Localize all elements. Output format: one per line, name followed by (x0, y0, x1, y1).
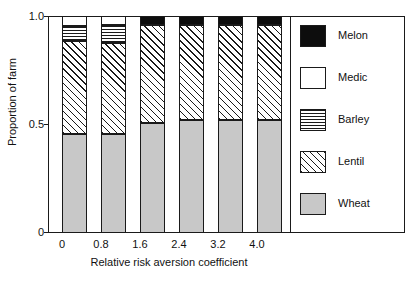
bar-segment-melon-3.2 (218, 16, 243, 25)
bar-0[interactable] (62, 16, 87, 233)
bar-segment-lentil-1.6 (140, 25, 165, 124)
stacked-bar-chart-figure: 1.0 0.5 0 Proportion of farm 0 0.8 1.6 2… (0, 0, 417, 281)
bar-segment-wheat-2.4 (179, 120, 204, 233)
bars-container (48, 16, 290, 233)
legend-swatch-medic-icon (300, 67, 326, 89)
xtick-label-2.4: 2.4 (157, 238, 201, 250)
x-axis-label: Relative risk aversion coefficient (48, 256, 290, 268)
bar-3.2[interactable] (218, 16, 243, 233)
legend-swatch-melon-icon (300, 25, 326, 47)
ytick-label-0: 0 (0, 227, 44, 238)
bar-segment-barley-0 (62, 26, 87, 41)
legend-item-melon[interactable]: Melon (300, 25, 404, 47)
legend-swatch-wheat-icon (300, 193, 326, 215)
bar-segment-medic-0.8 (101, 16, 126, 25)
bar-2.4[interactable] (179, 16, 204, 233)
bar-segment-wheat-0 (62, 134, 87, 233)
y-axis-label: Proportion of farm (6, 12, 18, 192)
bar-segment-lentil-0 (62, 41, 87, 134)
bar-segment-wheat-0.8 (101, 134, 126, 233)
legend-swatch-lentil-icon (300, 151, 326, 173)
legend-item-wheat[interactable]: Wheat (300, 193, 404, 215)
bar-segment-medic-0 (62, 16, 87, 26)
legend-label-wheat: Wheat (338, 197, 370, 209)
bar-4.0[interactable] (257, 16, 282, 233)
legend-item-lentil[interactable]: Lentil (300, 151, 404, 173)
bar-segment-barley-0.8 (101, 25, 126, 43)
legend-label-lentil: Lentil (338, 155, 364, 167)
xtick-label-4.0: 4.0 (235, 238, 279, 250)
bar-segment-lentil-3.2 (218, 25, 243, 120)
legend-item-barley[interactable]: Barley (300, 109, 404, 131)
xtick-label-1.6: 1.6 (118, 238, 162, 250)
bar-segment-lentil-4.0 (257, 25, 282, 120)
xtick-label-3.2: 3.2 (196, 238, 240, 250)
bar-segment-melon-2.4 (179, 16, 204, 25)
legend-label-medic: Medic (338, 71, 367, 83)
legend-item-medic[interactable]: Medic (300, 67, 404, 89)
bar-segment-wheat-3.2 (218, 120, 243, 233)
bar-segment-melon-1.6 (140, 16, 165, 25)
chart-legend: Melon Medic Barley Lentil Wheat (292, 17, 404, 232)
bar-1.6[interactable] (140, 16, 165, 233)
legend-swatch-barley-icon (300, 109, 326, 131)
bar-segment-melon-4.0 (257, 16, 282, 25)
legend-label-barley: Barley (338, 113, 369, 125)
bar-segment-wheat-4.0 (257, 120, 282, 233)
bar-0.8[interactable] (101, 16, 126, 233)
legend-label-melon: Melon (338, 29, 368, 41)
xtick-label-0: 0 (40, 238, 84, 250)
bar-segment-lentil-0.8 (101, 43, 126, 134)
bar-segment-wheat-1.6 (140, 123, 165, 233)
bar-segment-lentil-2.4 (179, 25, 204, 120)
xtick-label-0.8: 0.8 (79, 238, 123, 250)
legend-divider (290, 16, 291, 233)
